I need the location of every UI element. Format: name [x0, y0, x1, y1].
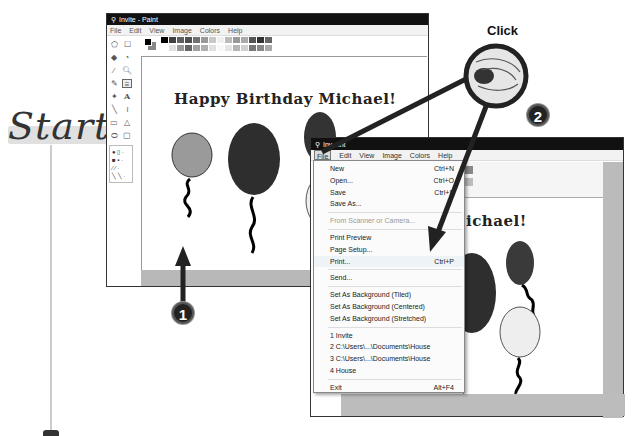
annotation-overlay: [0, 0, 634, 436]
step-1-badge: 1: [172, 302, 194, 324]
step-2-badge: 2: [527, 104, 549, 126]
click-label: Click: [487, 23, 518, 38]
